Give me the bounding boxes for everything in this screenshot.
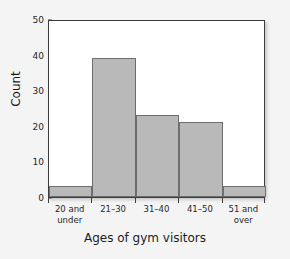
plot-frame xyxy=(48,20,265,198)
histogram-bar xyxy=(179,122,222,197)
y-axis-tick-label: 50 xyxy=(33,15,44,25)
histogram-bar xyxy=(136,115,179,197)
x-axis-tick-label: 51 andover xyxy=(229,204,259,225)
x-axis-tick-mark xyxy=(135,198,136,203)
x-axis-tick-label-line: 31–40 xyxy=(144,204,170,215)
x-axis-tick-label-line: over xyxy=(229,215,259,226)
x-axis-tick-labels: 20 andunder21–3031–4041–5051 andover xyxy=(48,204,265,230)
x-axis-tick-mark xyxy=(264,198,265,203)
x-axis-tick-label-line: 51 and xyxy=(229,204,259,215)
y-axis-tick-label: 0 xyxy=(38,193,44,203)
y-axis-tick-labels: 01020304050 xyxy=(0,20,44,198)
x-axis-tick-label-line: 21–30 xyxy=(100,204,126,215)
plot-area xyxy=(49,21,264,197)
histogram-figure: Count 01020304050 20 andunder21–3031–404… xyxy=(0,0,290,259)
x-axis-tick-label: 41–50 xyxy=(187,204,213,215)
x-axis-tick-label-line: 41–50 xyxy=(187,204,213,215)
x-axis-tick-label: 20 andunder xyxy=(55,204,85,225)
y-axis-tick-label: 20 xyxy=(33,122,44,132)
x-axis-tick-marks xyxy=(48,198,265,203)
y-axis-tick-label: 40 xyxy=(33,51,44,61)
histogram-bar xyxy=(49,186,92,197)
histogram-bar xyxy=(92,58,135,197)
x-axis-tick-label-line: 20 and xyxy=(55,204,85,215)
x-axis-tick-label: 31–40 xyxy=(144,204,170,215)
histogram-bar xyxy=(223,186,266,197)
x-axis-tick-mark xyxy=(91,198,92,203)
x-axis-tick-label-line: under xyxy=(55,215,85,226)
x-axis-tick-mark xyxy=(48,198,49,203)
x-axis-tick-label: 21–30 xyxy=(100,204,126,215)
x-axis-tick-mark xyxy=(222,198,223,203)
y-axis-tick-label: 30 xyxy=(33,86,44,96)
x-axis-label: Ages of gym visitors xyxy=(0,231,290,245)
y-axis-tick-label: 10 xyxy=(33,157,44,167)
x-axis-tick-mark xyxy=(178,198,179,203)
